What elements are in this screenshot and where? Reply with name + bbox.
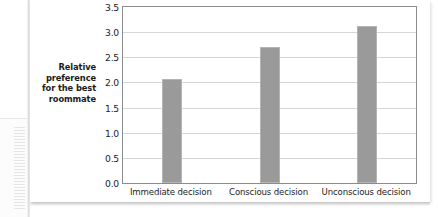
y-axis-title-line-4: roommate: [24, 94, 96, 105]
bar: [357, 26, 377, 183]
bar: [162, 79, 182, 183]
y-axis-tick-label: 3.0: [105, 27, 119, 38]
bar: [260, 47, 280, 183]
y-axis-tick-label: 1.0: [105, 127, 119, 138]
gutter-texture: [14, 126, 25, 209]
y-axis-tick-label: 2.0: [105, 77, 119, 88]
x-axis-category-label: Conscious decision: [229, 187, 308, 197]
x-axis-category-label: Unconscious decision: [322, 187, 411, 197]
figure-card-shadow: [30, 202, 430, 206]
y-axis-tick-label: 0.5: [105, 152, 119, 163]
y-axis-title: Relative preference for the best roommat…: [24, 62, 96, 104]
y-axis-title-line-1: Relative: [24, 62, 96, 73]
bar-chart-plot-area: 0.00.51.01.52.02.53.03.5: [122, 6, 417, 184]
x-axis-category-label: Immediate decision: [130, 187, 212, 197]
y-axis-title-line-3: for the best: [24, 83, 96, 94]
y-axis-tick-label: 1.5: [105, 102, 119, 113]
plot-canvas: 0.00.51.01.52.02.53.03.5: [123, 7, 416, 183]
y-axis-title-line-2: preference: [24, 73, 96, 84]
gutter-top-fade: [0, 0, 27, 118]
y-axis-tick-label: 0.0: [105, 178, 119, 189]
y-axis-tick-label: 2.5: [105, 52, 119, 63]
y-axis-tick-label: 3.5: [105, 2, 119, 13]
